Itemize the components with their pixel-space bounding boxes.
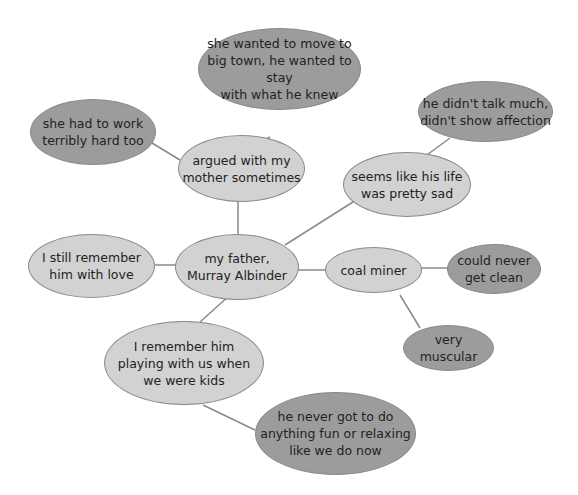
- node-playing: I remember him playing with us when we w…: [104, 321, 264, 405]
- node-fun-label: he never got to do anything fun or relax…: [260, 408, 411, 459]
- node-argued-label: argued with my mother sometimes: [182, 152, 300, 186]
- node-muscular-label: very muscular: [404, 331, 493, 365]
- node-center: my father, Murray Albinder: [175, 234, 299, 300]
- node-move-label: she wanted to move to big town, he wante…: [199, 35, 360, 103]
- node-miner: coal miner: [325, 247, 422, 293]
- node-argued: argued with my mother sometimes: [178, 135, 305, 202]
- node-sad-label: seems like his life was pretty sad: [352, 168, 463, 202]
- node-talk: he didn't talk much, didn't show affecti…: [418, 81, 553, 142]
- node-love: I still remember him with love: [28, 234, 155, 298]
- node-miner-label: coal miner: [340, 262, 406, 279]
- node-fun: he never got to do anything fun or relax…: [255, 392, 416, 475]
- node-talk-label: he didn't talk much, didn't show affecti…: [420, 95, 551, 129]
- node-work-label: she had to work terribly hard too: [42, 115, 144, 149]
- node-clean: could never get clean: [447, 244, 541, 294]
- node-playing-label: I remember him playing with us when we w…: [118, 338, 250, 389]
- node-sad: seems like his life was pretty sad: [343, 152, 471, 217]
- node-muscular: very muscular: [403, 325, 494, 371]
- node-clean-label: could never get clean: [457, 252, 531, 286]
- node-move: she wanted to move to big town, he wante…: [198, 28, 361, 110]
- node-work: she had to work terribly hard too: [30, 99, 156, 165]
- node-love-label: I still remember him with love: [42, 249, 141, 283]
- node-center-label: my father, Murray Albinder: [187, 250, 287, 284]
